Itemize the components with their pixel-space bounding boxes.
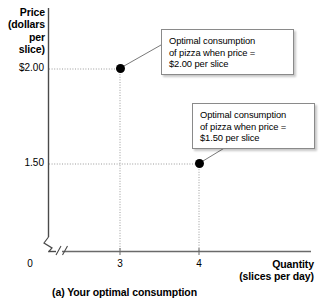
callout-200-line2: of pizza when price = [169, 47, 287, 59]
callout-box-price-200: Optimal consumption of pizza when price … [161, 29, 294, 75]
callout-connector-200 [124, 45, 161, 66]
y-axis-title-line3: per slice) [0, 31, 45, 56]
y-axis-title-line2: (dollars [0, 18, 45, 30]
x-tick-label-0: 0 [18, 258, 42, 269]
x-axis-break-mark [56, 246, 68, 255]
callout-150-line3: $1.50 per slice [200, 132, 308, 144]
data-point-4-150 [195, 159, 204, 168]
x-axis-title: Quantity (slices per day) [196, 258, 314, 283]
x-tick-label-4: 4 [187, 258, 211, 269]
callout-200-line1: Optimal consumption [169, 35, 287, 47]
x-axis-title-line1: Quantity [196, 258, 314, 270]
callout-box-price-150: Optimal consumption of pizza when price … [192, 103, 315, 149]
y-tick-label-150: 1.50 [0, 157, 44, 168]
figure-panel-a: Price (dollars per slice) Quantity (slic… [0, 0, 320, 306]
y-axis-title: Price (dollars per slice) [0, 6, 45, 56]
x-tick-label-3: 3 [108, 258, 132, 269]
callout-150-line1: Optimal consumption [200, 109, 308, 121]
figure-caption: (a) Your optimal consumption [52, 286, 197, 298]
x-axis-title-line2: (slices per day) [196, 270, 314, 282]
data-point-3-200 [116, 64, 125, 73]
callout-150-line2: of pizza when price = [200, 121, 308, 133]
y-axis-title-line1: Price [0, 6, 45, 18]
y-tick-label-200: $2.00 [0, 62, 44, 73]
callout-200-line3: $2.00 per slice [169, 58, 287, 70]
y-axis-break-mark [44, 237, 52, 252]
